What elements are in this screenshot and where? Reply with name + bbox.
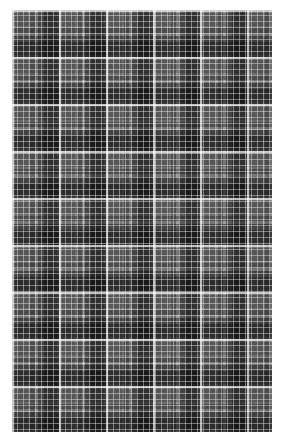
page-canvas — [0, 0, 285, 446]
vignette-overlay — [12, 10, 272, 432]
vertical-pinstripe-layer — [12, 10, 272, 432]
warp-band-layer — [12, 10, 272, 432]
horizontal-gridline-layer — [12, 10, 272, 432]
weft-band-layer — [12, 10, 272, 432]
grey-tartan-plaid-swatch — [12, 10, 272, 432]
fibre-noise-overlay — [12, 10, 272, 432]
horizontal-pinstripe-layer — [12, 10, 272, 432]
vertical-gridline-layer — [12, 10, 272, 432]
